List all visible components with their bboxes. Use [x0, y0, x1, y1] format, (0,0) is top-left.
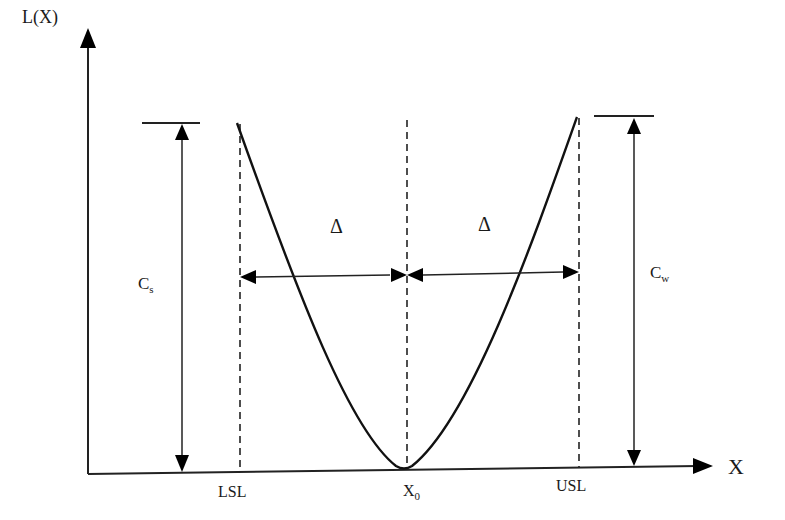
- loss-function-diagram: L(X) X Cs Cw Δ Δ LSL X0 USL: [0, 0, 785, 520]
- cs-dimension: [142, 123, 200, 472]
- delta-left-label: Δ: [330, 215, 343, 237]
- delta-right-arrow-right-icon: [563, 265, 579, 279]
- cw-dimension: [594, 116, 654, 466]
- delta-left-arrow-right-icon: [391, 268, 407, 282]
- y-axis: [80, 28, 96, 474]
- delta-right-arrow-left-icon: [407, 268, 423, 282]
- cs-label: Cs: [138, 274, 154, 295]
- delta-right-dimension: [407, 265, 579, 282]
- delta-left-arrow-left-icon: [240, 270, 256, 284]
- x0-label: X0: [403, 482, 421, 502]
- lsl-label: LSL: [218, 483, 246, 500]
- x-axis-arrowhead-icon: [693, 458, 713, 474]
- cw-label: Cw: [650, 263, 669, 284]
- delta-left-dimension: [240, 268, 407, 284]
- delta-right-label: Δ: [478, 213, 491, 235]
- cw-arrow-down-icon: [627, 450, 641, 466]
- y-axis-arrowhead-icon: [80, 28, 96, 48]
- usl-label: USL: [556, 477, 586, 494]
- x-axis-label: X: [728, 454, 744, 479]
- cs-arrow-down-icon: [175, 455, 189, 472]
- cw-arrow-up-icon: [627, 118, 641, 134]
- y-axis-label: L(X): [22, 7, 58, 28]
- cs-arrow-up-icon: [175, 124, 189, 140]
